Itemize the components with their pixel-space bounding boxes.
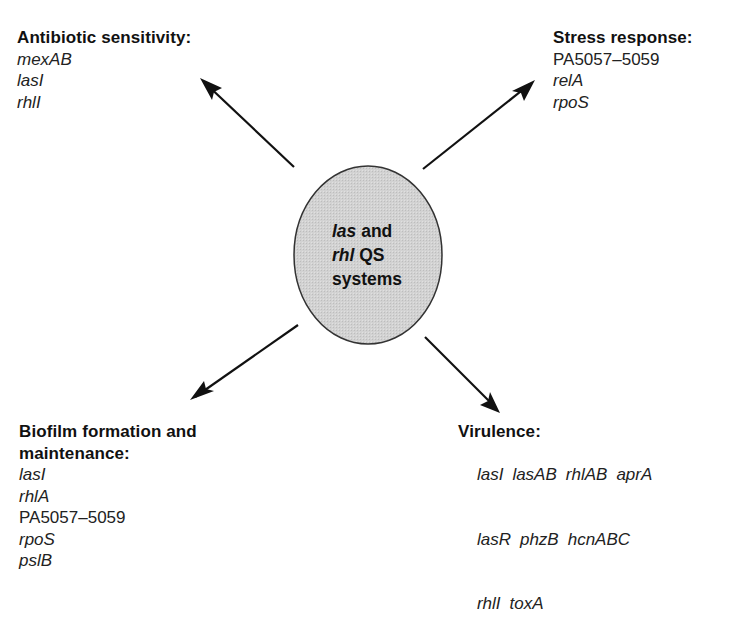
virulence-gene-row: rhlItoxA <box>458 572 652 621</box>
virulence-block: Virulence: lasIlasABrhlABaprA lasRphzBhc… <box>458 421 652 621</box>
stress-response-heading: Stress response: <box>553 27 693 49</box>
gene-item: relA <box>553 70 693 92</box>
gene-item: hcnABC <box>568 530 630 549</box>
antibiotic-sensitivity-block: Antibiotic sensitivity: mexAB lasI rhlI <box>17 27 191 113</box>
gene-item: rhlI <box>17 92 191 114</box>
gene-item: lasI <box>477 465 503 484</box>
gene-item: PA5057–5059 <box>553 49 693 71</box>
gene-item: phzB <box>520 530 559 549</box>
virulence-heading: Virulence: <box>458 421 652 443</box>
arrow-to-biofilm <box>195 325 298 397</box>
gene-item: lasR <box>477 530 511 549</box>
antibiotic-sensitivity-heading: Antibiotic sensitivity: <box>17 27 191 49</box>
gene-item: PA5057–5059 <box>19 507 279 529</box>
arrow-to-virulence <box>425 337 496 408</box>
hub-label-row-3: systems <box>294 267 442 291</box>
gene-item: lasI <box>19 464 279 486</box>
hub-label-row-1: las and <box>294 219 442 243</box>
qs-hub-label: las and rhl QS systems <box>294 219 442 291</box>
arrowhead-biofilm-icon <box>190 381 214 400</box>
hub-label-row-2: rhl QS <box>294 243 442 267</box>
arrow-to-antibiotic-sensitivity <box>204 82 294 167</box>
biofilm-formation-block: Biofilm formation and maintenance: lasI … <box>19 421 279 572</box>
stress-response-block: Stress response: PA5057–5059 relA rpoS <box>553 27 693 113</box>
gene-item: mexAB <box>17 49 191 71</box>
gene-item: rpoS <box>553 92 693 114</box>
gene-item: lasI <box>17 70 191 92</box>
gene-item: rhlI <box>477 594 501 613</box>
biofilm-formation-heading: Biofilm formation and maintenance: <box>19 421 279 464</box>
gene-item: rhlAB <box>566 465 608 484</box>
gene-item: rhlA <box>19 486 279 508</box>
arrow-to-stress-response <box>423 84 530 169</box>
virulence-gene-row: lasIlasABrhlABaprA <box>458 443 652 508</box>
gene-item: pslB <box>19 550 279 572</box>
gene-item: rpoS <box>19 529 279 551</box>
gene-item: toxA <box>510 594 544 613</box>
virulence-gene-row: lasRphzBhcnABC <box>458 507 652 572</box>
arrowhead-stress-icon <box>512 80 535 101</box>
gene-item: aprA <box>616 465 652 484</box>
gene-item: lasAB <box>512 465 556 484</box>
